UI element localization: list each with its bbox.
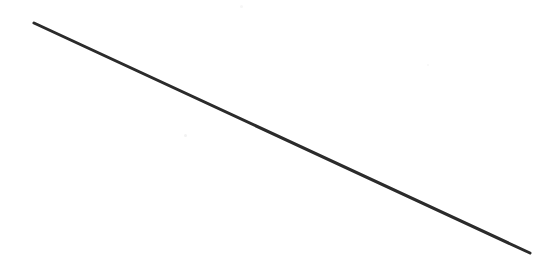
figure-canvas: A single straight dark line drawn on a p… [0,0,560,265]
line-drawing [0,0,560,265]
canvas-background [0,0,560,265]
